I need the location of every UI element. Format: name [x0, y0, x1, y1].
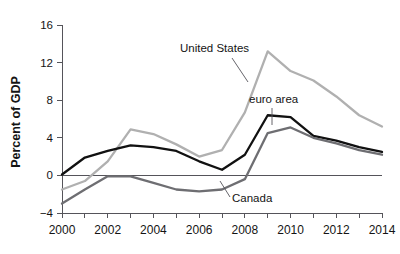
y-axis-tick-label: 8 — [47, 94, 53, 106]
y-axis-tick-label: 4 — [47, 132, 54, 144]
y-axis-title: Percent of GDP — [9, 76, 23, 168]
annotation-label-euro-area: euro area — [249, 93, 299, 105]
x-axis-tick-label: 2002 — [94, 223, 121, 237]
series-lines — [62, 51, 382, 203]
annotation-leader-united-states — [232, 58, 248, 82]
annotation-label-united-states: United States — [180, 42, 249, 54]
x-axis-tick-label: 2000 — [49, 223, 76, 237]
line-chart: −40481216 200020022004200620082010201220… — [0, 0, 400, 254]
y-axis-tick-label: −4 — [40, 207, 54, 219]
x-axis-tick-label: 2010 — [277, 223, 304, 237]
y-axis-tick-label: 16 — [40, 19, 53, 31]
x-axis-tick-label: 2006 — [186, 223, 213, 237]
y-axis-tick-label: 0 — [47, 169, 53, 181]
x-axis-tick-label: 2014 — [369, 223, 396, 237]
y-axis: −40481216 — [40, 19, 62, 219]
chart-container: −40481216 200020022004200620082010201220… — [0, 0, 400, 254]
y-axis-tick-label: 12 — [40, 57, 53, 69]
x-axis-tick-label: 2012 — [323, 223, 350, 237]
series-line-euro-area — [62, 115, 382, 174]
x-axis-tick-label: 2008 — [232, 223, 259, 237]
annotation-label-canada: Canada — [232, 192, 273, 204]
x-axis-tick-label: 2004 — [140, 223, 167, 237]
series-line-canada — [62, 127, 382, 203]
x-axis: 20002002200420062008201020122014 — [49, 213, 396, 237]
